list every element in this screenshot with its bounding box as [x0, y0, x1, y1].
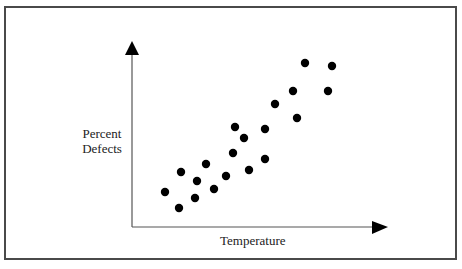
data-point [229, 149, 237, 157]
data-point [202, 160, 210, 168]
data-point [245, 166, 253, 174]
y-axis-arrow-icon [125, 41, 139, 55]
data-point [261, 155, 269, 163]
data-point [210, 185, 218, 193]
data-points [161, 59, 336, 212]
data-point [161, 188, 169, 196]
data-point [301, 59, 309, 67]
data-point [177, 168, 185, 176]
data-point [222, 172, 230, 180]
data-point [261, 125, 269, 133]
y-axis-label: Percent Defects [74, 126, 130, 156]
data-point [328, 62, 336, 70]
data-point [324, 87, 332, 95]
data-point [193, 177, 201, 185]
data-point [271, 100, 279, 108]
data-point [191, 194, 199, 202]
data-point [231, 123, 239, 131]
data-point [289, 87, 297, 95]
x-axis-label: Temperature [220, 233, 286, 248]
y-axis-label-line1: Percent [74, 126, 130, 141]
x-axis-arrow-icon [372, 221, 388, 234]
data-point [175, 204, 183, 212]
y-axis-label-line2: Defects [74, 141, 130, 156]
data-point [240, 134, 248, 142]
data-point [293, 114, 301, 122]
scatter-plot [0, 0, 462, 269]
